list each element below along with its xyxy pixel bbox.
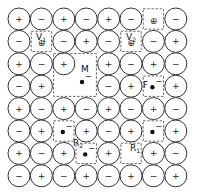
anion-ion: − (98, 30, 120, 52)
anion-ion: − (53, 165, 75, 187)
cation-ion: + (120, 75, 142, 97)
anion-ion: − (120, 53, 142, 75)
cation-ion: + (142, 142, 164, 164)
electron-charge-sign: − (155, 77, 162, 86)
plus-sign: + (172, 171, 180, 181)
anion-ion: − (8, 165, 30, 187)
plus-sign: + (172, 81, 180, 91)
cation-ion: + (165, 165, 187, 187)
cation-ion: + (8, 53, 30, 75)
hole-icon: ⊕ (150, 16, 158, 26)
anion-ion: − (142, 30, 164, 52)
plus-sign: + (150, 59, 158, 69)
electron-icon (83, 152, 87, 156)
plus-sign: + (60, 59, 68, 69)
plus-sign: + (150, 104, 158, 114)
cation-ion: + (30, 120, 52, 142)
anion-ion: − (165, 98, 187, 120)
anion-ion: − (165, 8, 187, 30)
color-center-lattice-diagram: +−+−+−−−−+−−++−++−+−−+−+++−+−+−+−−++−+++… (0, 0, 197, 195)
label-f: F (143, 80, 148, 90)
cation-ion: + (165, 120, 187, 142)
cation-ion: + (75, 165, 97, 187)
anion-ion: − (120, 98, 142, 120)
minus-sign: − (105, 36, 113, 46)
minus-sign: − (82, 104, 90, 114)
plus-sign: + (15, 104, 23, 114)
plus-sign: + (150, 148, 158, 158)
plus-sign: + (82, 171, 90, 181)
minus-sign: − (38, 104, 46, 114)
electron-charge-sign: − (88, 144, 95, 153)
plus-sign: + (15, 148, 23, 158)
plus-sign: + (127, 81, 135, 91)
cation-ion: + (142, 53, 164, 75)
ion-lattice: +−+−+−−−−+−−++−++−+−−+−+++−+−+−+−−++−+++… (8, 8, 187, 187)
electron-icon (61, 130, 65, 134)
cation-ion: + (98, 53, 120, 75)
plus-sign: + (172, 126, 180, 136)
plus-sign: + (38, 126, 46, 136)
anion-ion: − (8, 75, 30, 97)
anion-ion: − (165, 142, 187, 164)
anion-ion: − (30, 142, 52, 164)
minus-sign: − (15, 126, 23, 136)
minus-sign: − (127, 59, 135, 69)
plus-sign: + (60, 104, 68, 114)
cation-ion: + (120, 165, 142, 187)
cation-ion: + (98, 8, 120, 30)
defect-interstitial-top: ⊕ (143, 9, 163, 29)
minus-sign: − (38, 148, 46, 158)
anion-ion: − (75, 98, 97, 120)
anion-ion: − (165, 53, 187, 75)
minus-sign: − (60, 36, 68, 46)
label-m: M (81, 64, 89, 74)
minus-sign: − (127, 14, 135, 24)
plus-sign: + (38, 171, 46, 181)
minus-sign: − (82, 14, 90, 24)
cation-ion: + (165, 30, 187, 52)
label-r1: R1 (130, 143, 140, 154)
minus-sign: − (105, 171, 113, 181)
cation-ion: + (8, 8, 30, 30)
cation-ion: + (8, 98, 30, 120)
cation-ion: + (53, 8, 75, 30)
electron-icon (150, 130, 154, 134)
label-v1: V1 (36, 32, 46, 43)
anion-ion: − (30, 98, 52, 120)
plus-sign: + (127, 171, 135, 181)
plus-sign: + (105, 104, 113, 114)
anion-ion: − (98, 120, 120, 142)
plus-sign: + (15, 14, 23, 24)
electron-charge-sign: − (155, 122, 162, 131)
minus-sign: − (127, 104, 135, 114)
anion-ion: − (53, 30, 75, 52)
plus-sign: + (60, 148, 68, 158)
anion-ion: − (98, 165, 120, 187)
minus-sign: − (15, 36, 23, 46)
defect-r2a: − (54, 121, 74, 141)
anion-ion: − (75, 8, 97, 30)
anion-ion: − (98, 75, 120, 97)
minus-sign: − (172, 104, 180, 114)
electron-icon (80, 80, 84, 84)
cation-ion: + (53, 98, 75, 120)
minus-sign: − (15, 81, 23, 91)
anion-ion: − (8, 120, 30, 142)
minus-sign: − (172, 14, 180, 24)
plus-sign: + (105, 59, 113, 69)
plus-sign: + (15, 59, 23, 69)
plus-sign: + (60, 14, 68, 24)
cation-ion: + (98, 142, 120, 164)
electron-charge-sign: − (66, 122, 73, 131)
cation-ion: + (142, 98, 164, 120)
anion-ion: − (30, 53, 52, 75)
cation-ion: + (8, 142, 30, 164)
electron-icon (150, 85, 154, 89)
cation-ion: + (30, 75, 52, 97)
minus-sign: − (15, 171, 23, 181)
cation-ion: + (53, 142, 75, 164)
anion-ion: − (30, 8, 52, 30)
cation-ion: + (53, 53, 75, 75)
label-v2: V2 (126, 32, 136, 43)
